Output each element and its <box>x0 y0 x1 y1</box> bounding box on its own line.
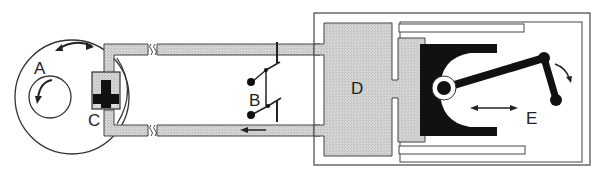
piston-e: E <box>420 44 572 136</box>
reciprocate-arrow-icon <box>470 105 518 111</box>
label-e: E <box>526 109 537 128</box>
label-d: D <box>351 79 363 98</box>
label-c: C <box>88 111 100 130</box>
label-b: B <box>249 91 260 110</box>
mechanism-diagram: A C <box>0 0 608 177</box>
middle-pipes <box>154 44 321 136</box>
crank-rotation-arrow-icon <box>555 64 572 83</box>
label-a: A <box>34 59 46 78</box>
chamber-d: D <box>314 23 425 156</box>
diagram-stage: A C <box>0 0 608 177</box>
